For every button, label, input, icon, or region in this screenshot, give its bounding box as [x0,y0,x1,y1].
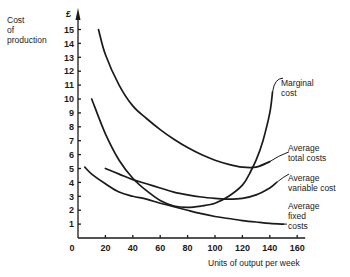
marginal-cost-curve [92,92,273,207]
y-axis-label-line3: production [7,35,47,45]
y-tick-label: 2 [69,205,74,215]
x-tick-label: 100 [207,243,222,253]
marginal-cost-label: Marginal cost [281,78,314,98]
y-tick-label: 14 [64,39,74,49]
average-total-costs-label: Average total costs [288,143,326,163]
x-tick-label: 40 [128,243,138,253]
y-tick-label: 10 [64,94,74,104]
x-tick-label: 60 [155,243,165,253]
curves [85,30,284,225]
afc-label-line3: costs [288,221,320,231]
atc-label-line1: Average [288,143,326,153]
y-axis-label-line2: of [7,25,47,35]
y-tick-label: 5 [69,164,74,174]
average-variable-cost-curve [105,169,276,200]
mc-label-line2: cost [281,88,314,98]
y-tick-label: 4 [69,178,74,188]
cost-curves-chart: 1234567891011121314150204060801001201401… [0,0,350,277]
x-tick-label: 80 [183,243,193,253]
mc-label-line1: Marginal [281,78,314,88]
average-variable-cost-label: Average variable cost [288,173,336,193]
y-tick-label: 9 [69,108,74,118]
x-tick-label: 20 [100,243,110,253]
x-tick-label: 140 [262,243,277,253]
y-tick-label: 1 [69,219,74,229]
y-tick-label: 11 [64,80,74,90]
y-tick-label: 13 [64,53,74,63]
avc-label-line1: Average [288,173,336,183]
y-axis-arrow-icon [76,8,81,20]
x-tick-label: 120 [235,243,250,253]
atc-label-line2: total costs [288,153,326,163]
afc-label-line2: fixed [288,211,320,221]
average-fixed-costs-label: Average fixed costs [288,201,320,231]
y-axis-label-line1: Cost [7,15,47,25]
avc-label-line2: variable cost [288,183,336,193]
x-axis-label: Units of output per week [208,258,300,268]
y-tick-label: 7 [69,136,74,146]
y-tick-label: 6 [69,150,74,160]
label-leader-line [270,152,289,162]
x-tick-label: 0 [69,243,74,253]
y-tick-label: 15 [64,25,74,35]
afc-label-line1: Average [288,201,320,211]
y-tick-label: 3 [69,192,74,202]
average-total-costs-curve [99,30,270,168]
y-tick-label: 8 [69,122,74,132]
currency-symbol: £ [66,9,71,19]
label-leaders [270,78,289,224]
y-axis-label: Cost of production [7,15,47,45]
y-tick-label: 12 [64,66,74,76]
axes: 1234567891011121314150204060801001201401… [64,8,305,253]
x-tick-label: 160 [290,243,305,253]
